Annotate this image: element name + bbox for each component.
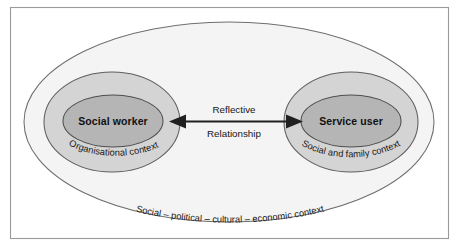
arrow-label-top: Reflective: [212, 104, 256, 115]
diagram-root: Social worker Service user Reflective Re…: [0, 0, 460, 249]
diagram-canvas: Social worker Service user Reflective Re…: [0, 0, 460, 249]
left-core-label: Social worker: [78, 115, 148, 127]
arrow-label-bottom: Relationship: [207, 128, 261, 139]
right-core-label: Service user: [319, 115, 383, 127]
